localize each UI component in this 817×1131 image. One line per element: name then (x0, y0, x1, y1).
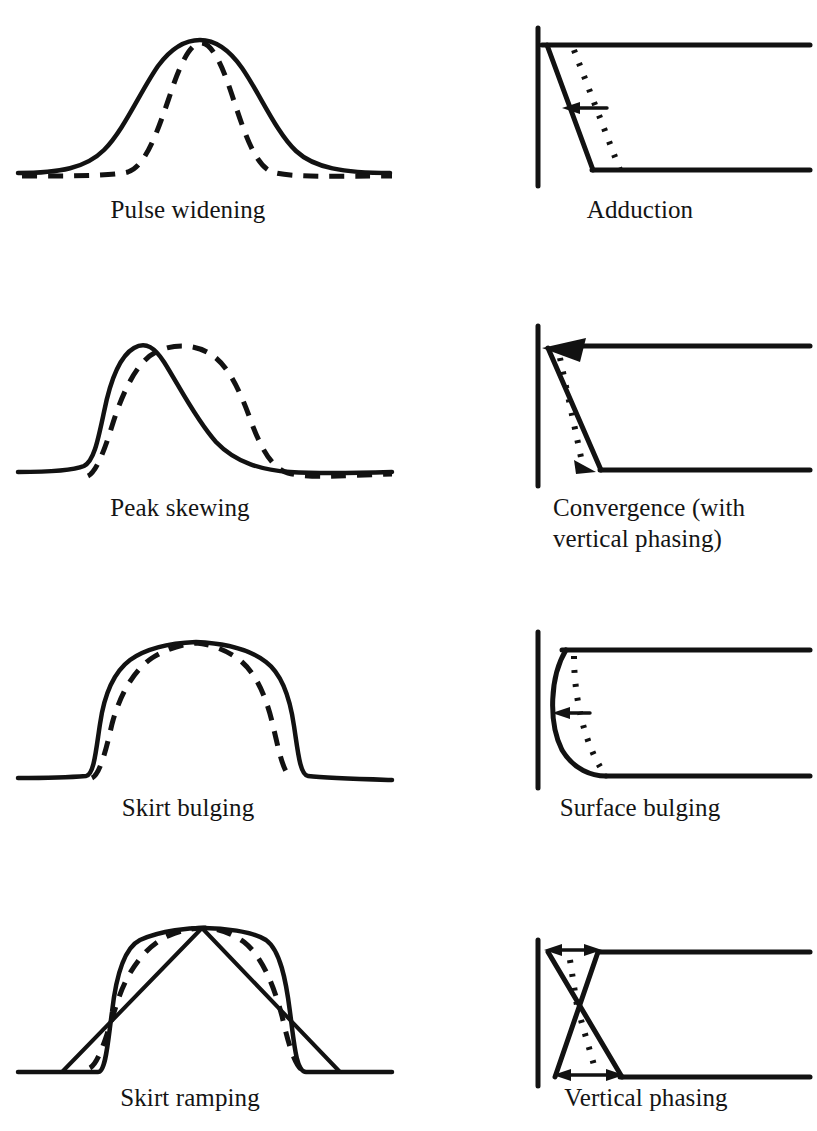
vertical-phasing-bottom-double-arrow (553, 1069, 624, 1081)
convergence-solid-slant (548, 348, 601, 470)
skirt-ramping-right-ramp-line (202, 928, 340, 1072)
panel-skirt-bulging (0, 600, 410, 790)
caption-convergence: Convergence (with vertical phasing) (553, 492, 745, 554)
surface-bulging-left-arrow (552, 707, 590, 719)
panel-surface-bulging (450, 600, 817, 790)
panel-adduction (450, 0, 817, 190)
caption-vertical-phasing: Vertical phasing (564, 1082, 727, 1113)
panel-pulse-widening (0, 0, 410, 190)
convergence-small-down-arrowhead (574, 460, 596, 474)
panel-skirt-ramping (0, 890, 410, 1090)
pulse-widening-dashed-curve (22, 43, 392, 176)
caption-convergence-line-1: Convergence (with (553, 494, 745, 521)
caption-peak-skewing: Peak skewing (110, 492, 249, 523)
caption-skirt-ramping: Skirt ramping (120, 1082, 259, 1113)
convergence-large-left-arrowhead (542, 338, 586, 362)
peak-skewing-solid-curve (18, 345, 392, 473)
caption-surface-bulging: Surface bulging (560, 792, 720, 823)
pulse-widening-solid-curve (18, 40, 390, 173)
adduction-dotted-slant (574, 50, 620, 170)
vertical-phasing-top-double-arrow (544, 944, 602, 956)
panel-vertical-phasing (450, 890, 817, 1090)
caption-skirt-bulging: Skirt bulging (122, 792, 255, 823)
panel-convergence (450, 300, 817, 490)
peak-skewing-dashed-curve (88, 346, 392, 476)
vertical-phasing-dotted-upper (570, 960, 578, 1012)
skirt-ramping-flat-top-curve (18, 928, 392, 1072)
convergence-dotted-slant (560, 358, 582, 462)
caption-pulse-widening: Pulse widening (111, 194, 266, 225)
panel-peak-skewing (0, 300, 410, 490)
caption-adduction: Adduction (587, 194, 693, 225)
skirt-bulging-solid-curve (18, 642, 392, 780)
caption-convergence-line-2: vertical phasing) (553, 525, 722, 552)
skirt-bulging-dashed-curve (92, 643, 292, 778)
figure-root: Pulse widening Adduction Peak skewing (0, 0, 817, 1131)
